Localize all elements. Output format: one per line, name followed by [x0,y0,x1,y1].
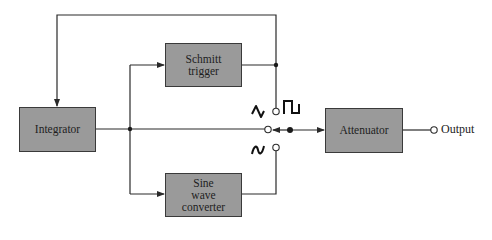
schmitt-output-line [242,65,276,108]
sine-wave-icon [252,146,264,154]
switch-contact-square[interactable] [273,108,279,114]
triangle-wave-icon [252,106,264,117]
output-label: Output [441,122,474,137]
square-wave-icon [284,101,299,114]
switch-pivot-dot[interactable] [287,127,293,133]
schmitt-trigger-block: Schmitt trigger [165,43,242,87]
integrator-block: Integrator [19,107,96,152]
sine-output-line [241,151,276,194]
sine-wave-converter-block: Sine wave converter [165,173,242,217]
attenuator-block: Attenuator [325,108,403,153]
junction-dot-branch [128,127,132,131]
switch-contact-sine[interactable] [273,144,279,150]
output-terminal [431,127,437,133]
junction-dot-schmitt [274,63,278,67]
switch-contact-triangle[interactable] [265,126,271,132]
